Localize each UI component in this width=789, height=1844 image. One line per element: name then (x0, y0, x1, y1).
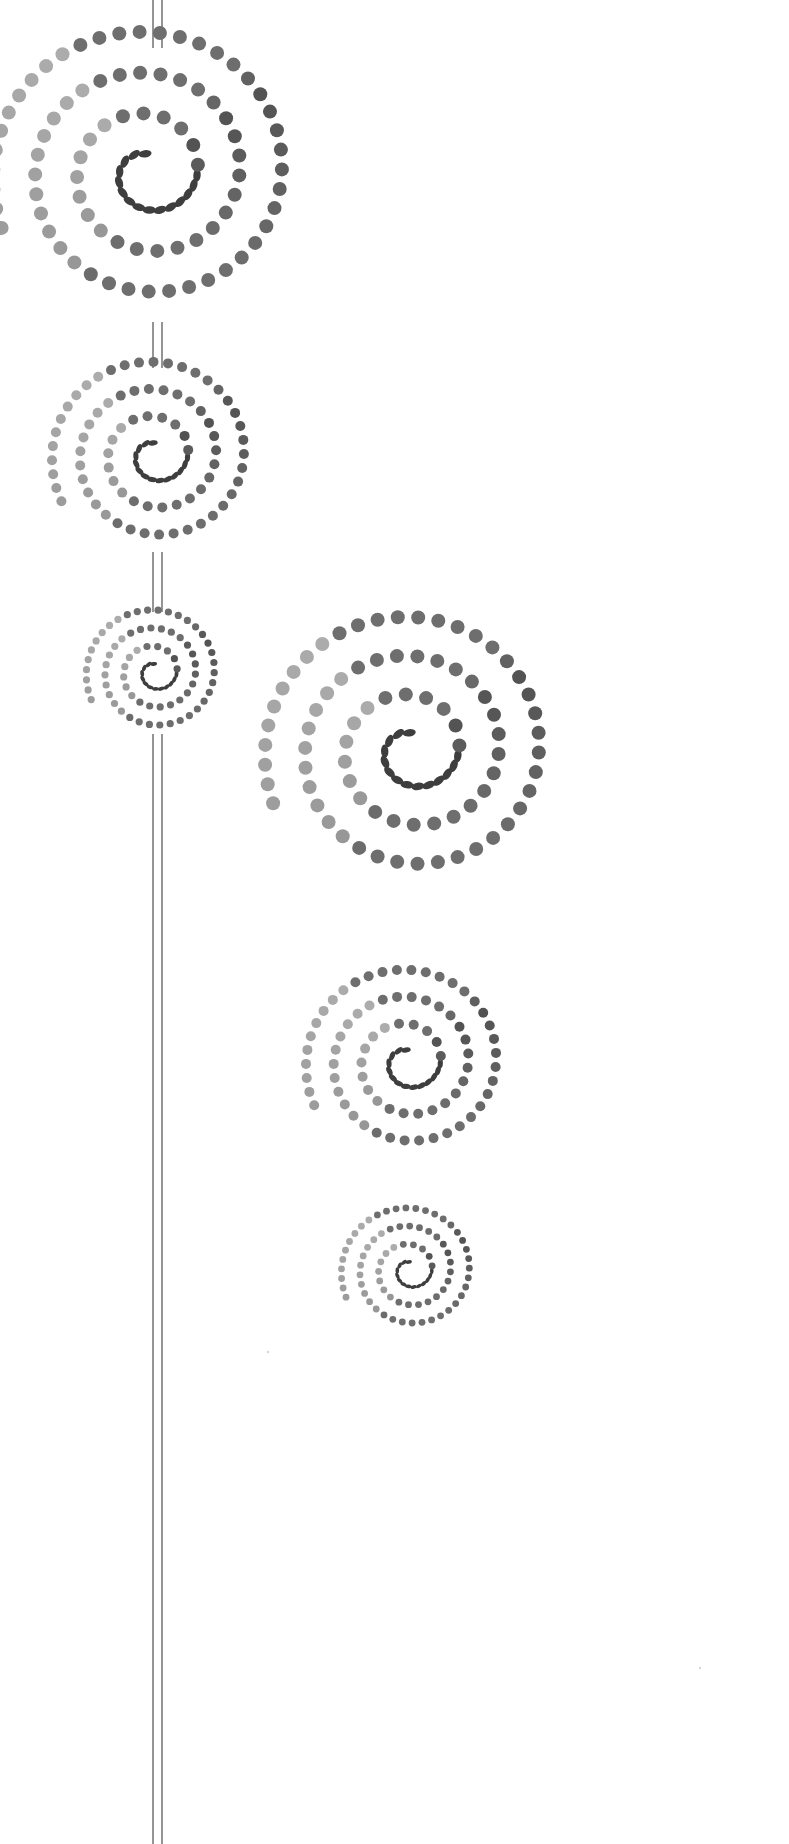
spiral-dot (464, 799, 478, 813)
spiral-dot (364, 1244, 371, 1251)
spiral-dot (343, 774, 357, 788)
spiral-dot (466, 1112, 476, 1122)
spiral-dot (120, 360, 130, 370)
spiral-dot (389, 1316, 396, 1323)
spiral-dot (143, 411, 153, 421)
spiral-dot (403, 1205, 410, 1212)
spiral-dot (184, 642, 191, 649)
spiral-dot (426, 1253, 433, 1260)
spiral-dot (529, 765, 543, 779)
spiral-dot (447, 1268, 454, 1275)
spiral-dot (380, 1023, 390, 1033)
spiral-dot (130, 242, 144, 256)
spiral-dot (425, 1228, 432, 1235)
spiral-dot (214, 385, 224, 395)
spiral-dot (261, 718, 275, 732)
spiral-dot (196, 519, 206, 529)
spiral-dot (83, 488, 93, 498)
spiral-dot (232, 149, 246, 163)
spiral-dot (440, 1216, 447, 1223)
spiral-dot (190, 368, 200, 378)
spiral-dot (176, 696, 183, 703)
spiral-dot (483, 1089, 493, 1099)
spiral-dot (111, 235, 125, 249)
spiral-dot (383, 1250, 390, 1257)
spiral-dot (209, 679, 216, 686)
spiral-dot (477, 784, 491, 798)
spiral-dot (412, 1205, 419, 1212)
spiral-dot (416, 1224, 423, 1231)
spiral-dot (155, 607, 162, 614)
spiral-dot (42, 225, 56, 239)
spiral-dot (143, 643, 150, 650)
spiral-dot (239, 449, 249, 459)
spiral-dot (431, 855, 445, 869)
spiral-dot (478, 690, 492, 704)
spiral-dot (263, 105, 277, 119)
spiral-dot (421, 967, 431, 977)
spiral-dot (118, 708, 125, 715)
spiral-dot (422, 1026, 432, 1036)
spiral-dot (147, 624, 154, 631)
spiral-dot (210, 46, 224, 60)
spiral-dot (463, 1049, 473, 1059)
spiral-dot (93, 637, 100, 644)
spiral-dot (211, 445, 221, 455)
spiral-dot (352, 1230, 359, 1237)
spiral-dot (475, 1101, 485, 1111)
spiral-dot (56, 496, 66, 506)
spiral-dot (85, 686, 92, 693)
spiral-dot (219, 206, 233, 220)
spiral-dot (189, 233, 203, 247)
spiral-dot (363, 1085, 373, 1095)
spiral-dot (343, 1294, 350, 1301)
spiral-dot (394, 1019, 404, 1029)
spiral-dot (208, 511, 218, 521)
spiral-dot (383, 1208, 390, 1215)
spiral-dot (112, 27, 126, 41)
spiral-dot (410, 649, 424, 663)
spiral-dot (191, 158, 205, 172)
spiral-dot (298, 741, 312, 755)
spiral-dot (353, 1009, 363, 1019)
spiral-dot (196, 484, 206, 494)
spiral-dot (368, 805, 382, 819)
spiral-dot (238, 435, 248, 445)
spiral-dot (463, 1246, 470, 1253)
spiral-dot (322, 815, 336, 829)
spiral-dot (378, 1230, 385, 1237)
spiral-dot (189, 650, 196, 657)
spiral-dot (267, 700, 281, 714)
spiral-dot (445, 1249, 452, 1256)
spiral-dot (85, 656, 92, 663)
spiral-dot (235, 251, 249, 265)
spiral-dot (211, 669, 218, 676)
spiral-dot (165, 608, 172, 615)
spiral-dot (73, 38, 87, 52)
spiral-dot (106, 365, 116, 375)
spiral-dot (343, 1019, 353, 1029)
spiral-dot (129, 496, 139, 506)
spiral-dot (366, 1298, 373, 1305)
spiral-dot (357, 1271, 364, 1278)
spiral-dot (177, 717, 184, 724)
spiral-dot (458, 1076, 468, 1086)
spiral-dot (206, 689, 213, 696)
spiral-dot (378, 691, 392, 705)
spiral-dot (331, 1045, 341, 1055)
spiral-dot (248, 236, 262, 250)
spiral-dot (442, 1128, 452, 1138)
spiral-dot (501, 817, 515, 831)
spiral-dot (447, 1259, 454, 1266)
spiral-dot (378, 995, 388, 1005)
spiral-dot (208, 649, 215, 656)
spiral-dot (446, 1011, 456, 1021)
spiral-dot (144, 384, 154, 394)
spiral-dot (358, 1223, 365, 1230)
spiral-dot (393, 1205, 400, 1212)
spiral-dot (82, 380, 92, 390)
spiral-dot (103, 661, 110, 668)
spiral-dot (361, 1290, 368, 1297)
spiral-dot (106, 691, 113, 698)
spiral-dot (330, 1073, 340, 1083)
